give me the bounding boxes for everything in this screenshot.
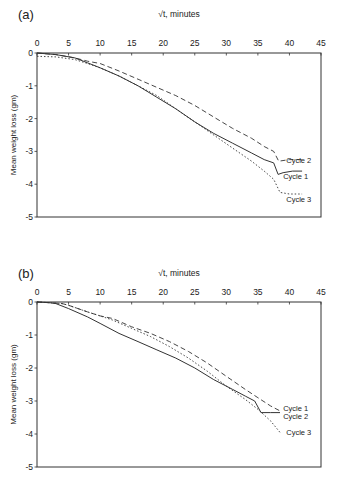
series-label: Cycle 2 <box>286 156 311 165</box>
x-tick-label: 40 <box>285 38 295 48</box>
x-tick-label: 30 <box>222 287 232 297</box>
panel-label: (a) <box>18 7 34 22</box>
y-tick-label: -4 <box>25 179 33 189</box>
series-line-cycle-1 <box>37 53 302 174</box>
y-tick-label: -3 <box>25 146 33 156</box>
series-line-cycle-2 <box>37 302 280 413</box>
plot-frame <box>37 53 321 217</box>
series-label: Cycle 3 <box>286 428 311 437</box>
y-tick-label: -2 <box>25 363 33 373</box>
x-tick-label: 5 <box>66 287 71 297</box>
chart-panel-a: (a)√t, minutesMean weight loss (gm)05101… <box>9 7 326 222</box>
x-tick-label: 0 <box>35 287 40 297</box>
series-label: Cycle 3 <box>286 195 311 204</box>
y-tick-label: -5 <box>25 462 33 472</box>
y-tick-label: 0 <box>28 48 33 58</box>
y-tick-label: -1 <box>25 81 33 91</box>
chart-panel-b: (b)√t, minutesMean weight loss (gm)05101… <box>9 266 326 472</box>
series-line-cycle-3 <box>37 302 280 432</box>
y-axis: 0-1-2-3-4-5 <box>25 297 37 472</box>
x-tick-label: 45 <box>316 38 326 48</box>
x-tick-label: 15 <box>127 38 137 48</box>
x-tick-label: 20 <box>158 287 168 297</box>
series-label: Cycle 2 <box>283 412 308 421</box>
series-label: Cycle 1 <box>283 172 308 181</box>
plot-frame <box>37 302 321 467</box>
x-tick-label: 5 <box>66 38 71 48</box>
x-axis-title: √t, minutes <box>158 268 200 278</box>
x-tick-label: 40 <box>285 287 295 297</box>
x-tick-label: 25 <box>190 38 200 48</box>
x-tick-label: 20 <box>158 38 168 48</box>
x-tick-label: 25 <box>190 287 200 297</box>
x-tick-label: 15 <box>127 287 137 297</box>
y-axis: 0-1-2-3-4-5 <box>25 48 37 222</box>
x-tick-label: 35 <box>253 38 263 48</box>
x-tick-label: 35 <box>253 287 263 297</box>
x-tick-label: 10 <box>95 38 105 48</box>
x-tick-label: 10 <box>95 287 105 297</box>
series-line-cycle-3 <box>37 56 302 194</box>
x-tick-label: 45 <box>316 287 326 297</box>
panel-label: (b) <box>18 266 34 281</box>
figure: (a)√t, minutesMean weight loss (gm)05101… <box>0 0 340 478</box>
y-tick-label: -1 <box>25 330 33 340</box>
x-tick-label: 0 <box>35 38 40 48</box>
y-axis-title: Mean weight loss (gm) <box>9 344 18 425</box>
y-tick-label: -2 <box>25 114 33 124</box>
y-tick-label: -5 <box>25 212 33 222</box>
y-tick-label: -3 <box>25 396 33 406</box>
x-axis-title: √t, minutes <box>158 9 200 19</box>
y-tick-label: 0 <box>28 297 33 307</box>
y-axis-title: Mean weight loss (gm) <box>9 94 18 175</box>
series-line-cycle-1 <box>37 302 280 411</box>
x-tick-label: 30 <box>222 38 232 48</box>
y-tick-label: -4 <box>25 429 33 439</box>
series-line-cycle-2 <box>37 53 302 161</box>
